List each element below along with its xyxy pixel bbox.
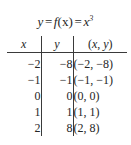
cell-pair: (−2, −8) bbox=[73, 53, 127, 73]
table-row: 1 1 (1, 1) bbox=[7, 104, 127, 120]
cell-x: 2 bbox=[7, 120, 41, 136]
table-row: −1 −1 (−1, −1) bbox=[7, 72, 127, 88]
cell-y: −1 bbox=[41, 72, 73, 88]
function-title: y=f(x)=x3 bbox=[0, 14, 131, 29]
cell-pair: (2, 8) bbox=[73, 120, 127, 136]
figure-container: y=f(x)=x3 x y (x, y) −2 −8 (−2, −8) bbox=[0, 0, 131, 145]
table-body: −2 −8 (−2, −8) −1 −1 (−1, −1) 0 0 (0, 0)… bbox=[7, 53, 127, 137]
cell-x: −2 bbox=[7, 53, 41, 73]
cell-pair: (0, 0) bbox=[73, 88, 127, 104]
pair-header-close-paren: ) bbox=[109, 37, 113, 51]
cell-y: −8 bbox=[41, 53, 73, 73]
table-row: 0 0 (0, 0) bbox=[7, 88, 127, 104]
value-table: x y (x, y) −2 −8 (−2, −8) −1 −1 (−1, −1)… bbox=[7, 36, 127, 136]
cell-y: 0 bbox=[41, 88, 73, 104]
title-expression-exponent: 3 bbox=[89, 14, 93, 23]
title-function-argument: (x) bbox=[58, 14, 73, 29]
cell-pair: (1, 1) bbox=[73, 104, 127, 120]
title-equals-2: = bbox=[73, 14, 83, 29]
column-header-pair: (x, y) bbox=[73, 36, 127, 53]
value-table-grid: x y (x, y) −2 −8 (−2, −8) −1 −1 (−1, −1)… bbox=[7, 36, 127, 136]
cell-y: 8 bbox=[41, 120, 73, 136]
table-row: −2 −8 (−2, −8) bbox=[7, 53, 127, 73]
title-equals-1: = bbox=[43, 14, 53, 29]
cell-pair: (−1, −1) bbox=[73, 72, 127, 88]
column-header-y: y bbox=[41, 36, 73, 53]
column-header-x: x bbox=[7, 36, 41, 53]
cell-x: 1 bbox=[7, 104, 41, 120]
cell-y: 1 bbox=[41, 104, 73, 120]
table-header-row: x y (x, y) bbox=[7, 36, 127, 53]
cell-x: 0 bbox=[7, 88, 41, 104]
table-row: 2 8 (2, 8) bbox=[7, 120, 127, 136]
cell-x: −1 bbox=[7, 72, 41, 88]
